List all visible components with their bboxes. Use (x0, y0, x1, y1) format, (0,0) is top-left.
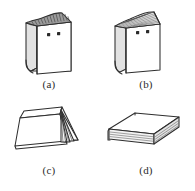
figure-label-c: (c) (0, 164, 98, 176)
figure-label-a: (a) (0, 78, 98, 90)
figure-label-d: (d) (97, 164, 195, 176)
book-c-page-fan (61, 110, 78, 143)
book-b-spine-face (115, 26, 126, 72)
figure-panel-a: (a) (0, 0, 98, 96)
figure-panel-c: (c) (0, 96, 98, 191)
book-illustration-d (97, 96, 195, 168)
book-a-cover-mark-2 (57, 32, 60, 35)
book-illustration-a (0, 0, 98, 80)
book-b-front-cover (126, 24, 160, 73)
book-a-cover-mark-1 (47, 33, 50, 36)
book-a-spine-face (26, 23, 37, 71)
book-illustration-b (97, 0, 195, 80)
figure-sheet: (a) (0, 0, 195, 191)
figure-panel-b: (b) (97, 0, 195, 96)
figure-panel-d: (d) (97, 96, 195, 191)
book-a-cover-plane (37, 22, 71, 74)
book-c-left-cover (15, 114, 66, 146)
book-b-cover-mark-2 (146, 30, 149, 33)
book-illustration-c (0, 96, 98, 168)
book-b-cover-mark-1 (136, 31, 139, 34)
figure-label-b: (b) (97, 78, 195, 90)
